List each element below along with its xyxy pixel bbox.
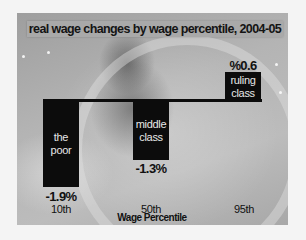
bar-label: ruling: [230, 74, 255, 87]
x-tick-95th: 95th: [224, 203, 264, 215]
chart-title-banner: real wage changes by wage percentile, 20…: [27, 21, 283, 37]
bar-label: poor: [51, 144, 72, 157]
bar-label: class: [231, 87, 255, 100]
bar-label: class: [139, 131, 163, 144]
sparkle-decoration: [22, 55, 25, 58]
x-axis-label: Wage Percentile: [112, 212, 192, 223]
bar-the-poor: the poor: [43, 101, 79, 187]
x-tick-10th: 10th: [41, 203, 81, 215]
sparkle-decoration: [47, 51, 50, 54]
chart-panel: real wage changes by wage percentile, 20…: [17, 13, 288, 225]
bar-middle-class: middle class: [133, 101, 169, 160]
value-label-poor: -1.9%: [36, 189, 86, 204]
bar-label: middle: [136, 118, 167, 131]
sparkle-decoration: [275, 63, 278, 66]
bar-ruling-class: ruling class: [225, 72, 261, 101]
value-label-middle: -1.3%: [126, 161, 176, 176]
value-label-ruling: %0.6: [218, 58, 268, 73]
sparkle-decoration: [279, 91, 282, 94]
bar-label: the: [54, 131, 68, 144]
chart-title: real wage changes by wage percentile, 20…: [29, 22, 281, 36]
